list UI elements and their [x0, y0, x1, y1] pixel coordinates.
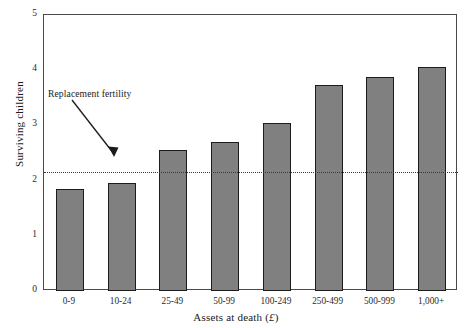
bar-chart: 5 4 3 2 1 0 Surviving children Replaceme…: [0, 0, 472, 328]
x-tick-label: 1,000+: [418, 296, 444, 306]
x-tick-label: 25-49: [162, 296, 184, 306]
x-tick-label: 0-9: [63, 296, 75, 306]
bar: [315, 85, 343, 291]
bar: [56, 189, 84, 291]
y-tick-label: 1: [11, 230, 37, 240]
bar: [418, 67, 446, 291]
x-tick-label: 500-999: [364, 296, 395, 306]
y-tick-label: 5: [11, 9, 37, 19]
bar: [263, 123, 291, 291]
y-tick-label: 0: [11, 285, 37, 295]
y-axis-title: Surviving children: [13, 44, 25, 204]
bar: [366, 77, 394, 291]
x-tick-label: 50-99: [213, 296, 235, 306]
x-axis-title-end: ): [275, 311, 279, 323]
x-tick-label: 100-249: [260, 296, 291, 306]
x-axis-title-text: Assets at death (: [193, 311, 269, 323]
replacement-fertility-line: [44, 172, 458, 173]
x-tick-label: 10-24: [110, 296, 132, 306]
annotation-arrow-icon: [70, 98, 130, 162]
bar: [211, 142, 239, 291]
bar: [108, 183, 136, 291]
x-axis-title: Assets at death (£): [0, 311, 472, 323]
x-tick-label: 250-499: [312, 296, 343, 306]
